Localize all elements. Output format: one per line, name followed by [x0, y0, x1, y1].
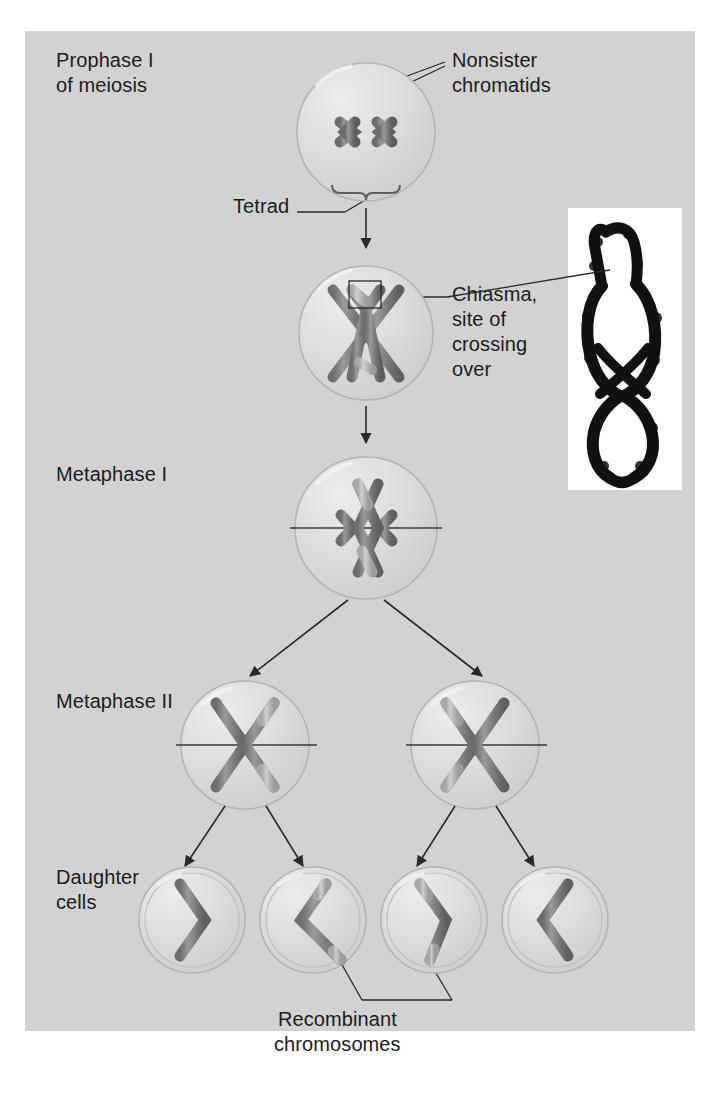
callout-chiasma: Chiasma, site of crossing over	[452, 282, 537, 382]
callout-tetrad: Tetrad	[233, 194, 289, 219]
stage-label-prophase-1: Prophase I of meiosis	[56, 48, 154, 98]
stage-label-metaphase-1: Metaphase I	[56, 462, 167, 487]
figure-root: Prophase I of meiosis Metaphase I Metaph…	[0, 0, 708, 1096]
callout-recombinant-chromosomes: Recombinant chromosomes	[274, 1007, 401, 1057]
stage-label-daughter-cells: Daughter cells	[56, 865, 139, 915]
callout-nonsister-chromatids: Nonsister chromatids	[452, 48, 551, 98]
chiasma-micrograph	[568, 208, 682, 490]
stage-label-metaphase-2: Metaphase II	[56, 689, 173, 714]
